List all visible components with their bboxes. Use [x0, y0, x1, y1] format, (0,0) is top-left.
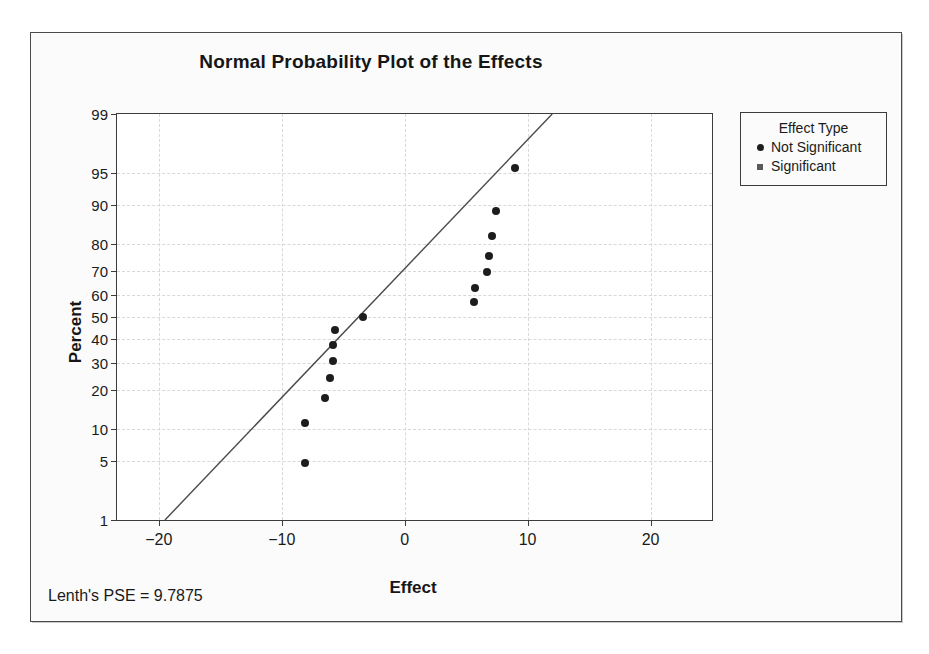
x-tick-label: −20 [145, 531, 172, 549]
y-tick-mark [111, 461, 117, 462]
gridline-horizontal [117, 317, 712, 318]
legend-box: Effect Type Not SignificantSignificant [740, 112, 887, 186]
data-point [321, 394, 329, 402]
y-tick-label: 20 [91, 382, 108, 399]
x-tick-label: −10 [268, 531, 295, 549]
y-tick-label: 90 [91, 197, 108, 214]
legend-title: Effect Type [751, 120, 876, 136]
pse-annotation: Lenth's PSE = 9.7875 [48, 587, 203, 605]
y-tick-mark [111, 339, 117, 340]
gridline-horizontal [117, 173, 712, 174]
y-tick-label: 99 [91, 106, 108, 123]
y-tick-label: 10 [91, 420, 108, 437]
gridline-horizontal [117, 339, 712, 340]
y-tick-mark [111, 317, 117, 318]
legend-entry: Not Significant [751, 138, 876, 157]
data-point [329, 341, 337, 349]
x-tick-label: 20 [642, 531, 660, 549]
data-point [326, 374, 334, 382]
circle-marker-glyph [757, 144, 764, 151]
data-point [483, 268, 491, 276]
circle-marker [751, 144, 769, 151]
gridline-horizontal [117, 271, 712, 272]
data-point [511, 164, 519, 172]
y-axis-label: Percent [66, 301, 86, 363]
y-tick-mark [111, 244, 117, 245]
y-tick-mark [111, 363, 117, 364]
y-tick-mark [111, 520, 117, 521]
legend-entries: Not SignificantSignificant [751, 138, 876, 176]
figure-panel: Normal Probability Plot of the Effects P… [30, 32, 902, 622]
gridline-horizontal [117, 461, 712, 462]
y-tick-label: 80 [91, 235, 108, 252]
x-axis-label: Effect [389, 578, 436, 598]
data-point [329, 357, 337, 365]
gridline-horizontal [117, 244, 712, 245]
y-tick-label: 70 [91, 263, 108, 280]
data-point [301, 459, 309, 467]
square-marker [751, 164, 769, 170]
chart-title: Normal Probability Plot of the Effects [31, 51, 711, 73]
y-tick-label: 1 [100, 512, 108, 529]
gridline-horizontal [117, 429, 712, 430]
x-tick-mark [282, 520, 283, 526]
data-point [331, 326, 339, 334]
y-tick-label: 40 [91, 331, 108, 348]
data-point [492, 207, 500, 215]
x-tick-label: 0 [400, 531, 409, 549]
gridline-horizontal [117, 390, 712, 391]
y-tick-mark [111, 390, 117, 391]
y-tick-mark [111, 429, 117, 430]
x-tick-mark [651, 520, 652, 526]
y-tick-mark [111, 173, 117, 174]
x-tick-mark [528, 520, 529, 526]
y-tick-label: 50 [91, 309, 108, 326]
data-point [485, 252, 493, 260]
data-point [470, 298, 478, 306]
gridline-horizontal [117, 295, 712, 296]
y-tick-mark [111, 271, 117, 272]
data-point [359, 313, 367, 321]
data-point [301, 419, 309, 427]
legend-entry-label: Significant [769, 157, 836, 176]
data-point [488, 232, 496, 240]
y-tick-label: 60 [91, 286, 108, 303]
plot-area: −20−1001020151020304050607080909599 [116, 113, 713, 521]
y-tick-mark [111, 205, 117, 206]
legend-entry-label: Not Significant [769, 138, 861, 157]
gridline-horizontal [117, 363, 712, 364]
x-tick-label: 10 [519, 531, 537, 549]
y-tick-mark [111, 114, 117, 115]
square-marker-glyph [757, 164, 763, 170]
x-tick-mark [159, 520, 160, 526]
data-point [471, 284, 479, 292]
gridline-horizontal [117, 205, 712, 206]
y-tick-label: 30 [91, 354, 108, 371]
y-tick-mark [111, 295, 117, 296]
legend-entry: Significant [751, 157, 876, 176]
y-tick-label: 95 [91, 165, 108, 182]
x-tick-mark [405, 520, 406, 526]
y-tick-label: 5 [100, 452, 108, 469]
